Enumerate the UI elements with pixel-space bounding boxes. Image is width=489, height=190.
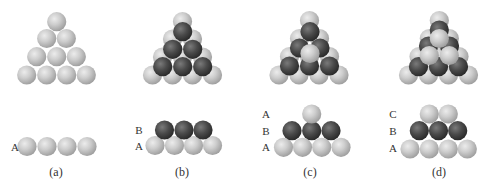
light-sphere — [17, 137, 36, 156]
dark-sphere — [174, 120, 193, 139]
layer-a-side — [302, 104, 321, 123]
light-sphere — [27, 47, 46, 66]
panel-caption: (c) — [303, 165, 316, 179]
light-sphere — [439, 139, 458, 158]
panel-c: ABA(c) — [262, 11, 351, 179]
light-sphere — [77, 65, 96, 84]
dark-sphere — [429, 121, 448, 140]
light-sphere — [300, 44, 319, 63]
light-sphere — [302, 104, 321, 123]
panel-c-side-view: ABA — [262, 104, 351, 156]
layer-label: A — [389, 142, 397, 154]
layer-a-side — [17, 137, 96, 156]
dark-sphere — [155, 120, 174, 139]
light-sphere — [57, 65, 76, 84]
light-sphere — [17, 65, 36, 84]
light-sphere — [47, 12, 66, 31]
dark-sphere — [173, 57, 192, 76]
light-sphere — [458, 139, 477, 158]
dark-sphere — [163, 40, 182, 59]
panel-c-top-view — [269, 11, 348, 85]
dark-sphere — [448, 121, 467, 140]
panel-b: BA(b) — [135, 12, 222, 179]
layer-a-top — [17, 12, 96, 85]
panels-container: A(a)BA(b)ABA(c)CBA(d) — [11, 11, 478, 179]
panel-b-side-view: BA — [135, 120, 222, 155]
layer-a-side — [274, 138, 351, 157]
light-sphere — [37, 137, 56, 156]
panel-b-top-view — [143, 12, 222, 85]
dark-sphere — [300, 22, 319, 41]
panel-caption: (b) — [175, 165, 189, 179]
dark-sphere — [410, 121, 429, 140]
panel-d-side-view: CBA — [389, 104, 477, 158]
light-sphere — [430, 29, 449, 48]
dark-sphere — [193, 120, 212, 139]
light-sphere — [57, 137, 76, 156]
panel-caption: (a) — [49, 165, 62, 179]
light-sphere — [37, 65, 56, 84]
panel-a-side-view: A — [11, 137, 97, 156]
light-sphere — [37, 29, 56, 48]
layer-label: B — [262, 125, 269, 137]
layer-a-side — [400, 139, 477, 158]
close-packing-figure: A(a)BA(b)ABA(c)CBA(d) — [0, 0, 489, 190]
light-sphere — [274, 138, 293, 157]
layer-label: A — [135, 140, 143, 152]
light-sphere — [420, 104, 439, 123]
dark-sphere — [282, 121, 301, 140]
panel-a-top-view — [17, 12, 96, 85]
layer-label: A — [262, 108, 270, 120]
layer-label: A — [262, 141, 270, 153]
light-sphere — [47, 47, 66, 66]
layer-b-side — [410, 121, 468, 140]
light-sphere — [439, 104, 458, 123]
dark-sphere — [321, 121, 340, 140]
panel-a: A(a) — [11, 12, 97, 179]
layer-a-top — [300, 44, 319, 63]
layer-label: C — [389, 108, 396, 120]
light-sphere — [420, 139, 439, 158]
layer-b-side — [282, 121, 340, 140]
layer-label: B — [389, 125, 396, 137]
panel-d: CBA(d) — [389, 11, 478, 179]
light-sphere — [57, 29, 76, 48]
light-sphere — [312, 138, 331, 157]
light-sphere — [440, 46, 459, 65]
layer-label: B — [135, 124, 142, 136]
dark-sphere — [183, 40, 202, 59]
light-sphere — [420, 46, 439, 65]
panel-caption: (d) — [432, 165, 446, 179]
layer-b-side — [155, 120, 213, 139]
dark-sphere — [302, 121, 321, 140]
layer-c-side — [420, 104, 458, 123]
light-sphere — [67, 47, 86, 66]
light-sphere — [400, 139, 419, 158]
light-sphere — [293, 138, 312, 157]
dark-sphere — [193, 57, 212, 76]
light-sphere — [77, 137, 96, 156]
layer-label: A — [11, 141, 19, 153]
light-sphere — [331, 138, 350, 157]
panel-d-top-view — [399, 11, 478, 85]
dark-sphere — [173, 22, 192, 41]
dark-sphere — [153, 57, 172, 76]
dark-sphere — [280, 56, 299, 75]
dark-sphere — [320, 56, 339, 75]
